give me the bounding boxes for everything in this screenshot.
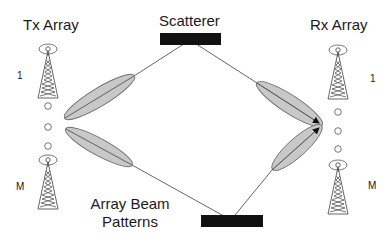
rx-beam-lower xyxy=(266,119,327,177)
beam-patterns-line1: Array Beam xyxy=(80,195,180,213)
rx-antenna-1-icon xyxy=(328,45,348,99)
scatterer-bottom xyxy=(201,215,263,227)
rx-antenna-m-icon xyxy=(328,160,348,214)
rx-beam-upper xyxy=(252,75,327,132)
rx-array-label: Rx Array xyxy=(310,16,368,33)
rx-element-last-label: M xyxy=(368,180,376,191)
diagram-canvas xyxy=(0,0,391,239)
tx-beam-lower xyxy=(62,121,137,172)
tx-antenna-1-icon xyxy=(38,44,58,98)
scatterer-top xyxy=(160,33,221,45)
tx-element-last-label: M xyxy=(16,181,24,192)
tx-array-label: Tx Array xyxy=(23,16,79,33)
tx-antenna-m-icon xyxy=(38,155,58,209)
tx-beam-upper xyxy=(60,68,139,126)
beam-patterns-label: Array Beam Patterns xyxy=(80,195,180,231)
propagation-paths xyxy=(132,40,272,220)
mimo-scattering-diagram: Tx Array 1 M Scatterer Rx Array 1 M Arra… xyxy=(0,0,391,239)
scatterer-label: Scatterer xyxy=(159,12,220,29)
tx-element-first-label: 1 xyxy=(17,70,23,81)
beam-patterns-line2: Patterns xyxy=(80,213,180,231)
rx-array-ellipsis xyxy=(335,109,342,153)
rx-element-first-label: 1 xyxy=(370,73,376,84)
tx-array-ellipsis xyxy=(45,103,52,150)
